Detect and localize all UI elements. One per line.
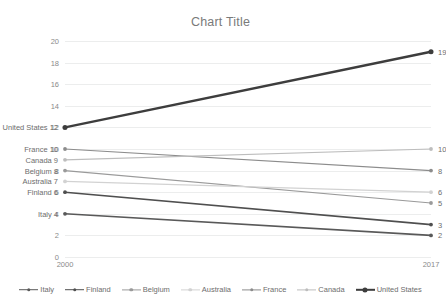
legend-swatch-canada bbox=[297, 285, 316, 294]
end-label-belgium: 5 bbox=[438, 199, 442, 208]
legend-swatch-finland bbox=[65, 285, 84, 294]
start-label-finland: Finland 6 bbox=[27, 188, 58, 197]
data-point-marker bbox=[63, 212, 67, 216]
series-line-france bbox=[65, 149, 431, 171]
legend-swatch-italy bbox=[19, 285, 38, 294]
data-point-marker bbox=[429, 147, 433, 151]
data-point-marker bbox=[429, 190, 433, 194]
chart-legend: ItalyFinlandBelgiumAustraliaFranceCanada… bbox=[0, 285, 441, 294]
legend-item-finland[interactable]: Finland bbox=[65, 285, 111, 294]
data-point-marker bbox=[429, 201, 433, 205]
data-point-marker bbox=[63, 190, 67, 194]
series-lines bbox=[65, 41, 431, 257]
legend-swatch-belgium bbox=[122, 285, 141, 294]
end-label-australia: 6 bbox=[438, 188, 442, 197]
legend-label-italy: Italy bbox=[40, 285, 54, 294]
end-label-italy: 2 bbox=[438, 231, 442, 240]
start-label-canada: Canada 9 bbox=[25, 155, 58, 164]
y-axis-tick: 16 bbox=[51, 80, 59, 89]
legend-item-united-states[interactable]: United States bbox=[356, 285, 422, 294]
y-axis-tick: 2 bbox=[55, 231, 59, 240]
start-label-australia: Australia 7 bbox=[23, 177, 58, 186]
legend-item-belgium[interactable]: Belgium bbox=[122, 285, 170, 294]
data-point-marker bbox=[429, 223, 433, 227]
data-point-marker bbox=[63, 180, 67, 184]
y-axis-tick: 20 bbox=[51, 37, 59, 46]
end-label-canada: 10 bbox=[438, 145, 446, 154]
data-point-marker bbox=[428, 49, 433, 54]
data-point-marker bbox=[62, 125, 67, 130]
legend-swatch-france bbox=[242, 285, 261, 294]
legend-item-canada[interactable]: Canada bbox=[297, 285, 344, 294]
chart-title: Chart Title bbox=[0, 15, 441, 29]
series-line-canada bbox=[65, 149, 431, 160]
legend-item-italy[interactable]: Italy bbox=[19, 285, 54, 294]
legend-item-australia[interactable]: Australia bbox=[181, 285, 231, 294]
plot-area: 02468101214161820 20002017 Italy 42Finla… bbox=[65, 41, 431, 257]
start-label-france: France 10 bbox=[24, 145, 58, 154]
legend-swatch-united-states bbox=[356, 285, 375, 294]
series-line-united-states bbox=[65, 52, 431, 128]
start-label-united-states: United States 12 bbox=[3, 123, 58, 132]
data-point-marker bbox=[63, 147, 67, 151]
data-point-marker bbox=[429, 169, 433, 173]
gridline bbox=[65, 257, 431, 258]
series-line-finland bbox=[65, 192, 431, 224]
y-axis-tick: 18 bbox=[51, 58, 59, 67]
data-point-marker bbox=[63, 169, 67, 173]
start-label-belgium: Belgium 8 bbox=[25, 166, 58, 175]
x-axis-tick: 2000 bbox=[57, 260, 74, 269]
legend-label-france: France bbox=[263, 285, 286, 294]
data-point-marker bbox=[429, 234, 433, 238]
legend-label-finland: Finland bbox=[86, 285, 111, 294]
end-label-finland: 3 bbox=[438, 220, 442, 229]
y-axis-tick: 14 bbox=[51, 101, 59, 110]
legend-swatch-australia bbox=[181, 285, 200, 294]
series-line-australia bbox=[65, 181, 431, 192]
x-axis-tick: 2017 bbox=[423, 260, 440, 269]
series-line-italy bbox=[65, 214, 431, 236]
legend-label-united-states: United States bbox=[377, 285, 422, 294]
end-label-united-states: 19 bbox=[438, 47, 446, 56]
legend-item-france[interactable]: France bbox=[242, 285, 286, 294]
start-label-italy: Italy 4 bbox=[38, 209, 58, 218]
legend-label-belgium: Belgium bbox=[143, 285, 170, 294]
end-label-france: 8 bbox=[438, 166, 442, 175]
data-point-marker bbox=[63, 158, 67, 162]
legend-label-canada: Canada bbox=[318, 285, 344, 294]
legend-label-australia: Australia bbox=[202, 285, 231, 294]
